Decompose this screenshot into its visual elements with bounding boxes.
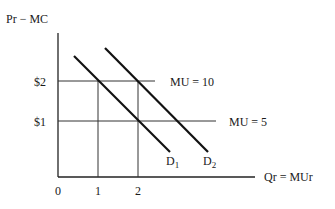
d2-label: D2 <box>203 154 216 170</box>
x-tick-1: 1 <box>95 184 101 198</box>
mu-5-label: MU = 5 <box>229 115 267 129</box>
y-tick-1: $1 <box>34 115 46 129</box>
y-axis-label: Pr − MC <box>6 12 48 26</box>
x-tick-2: 2 <box>135 184 141 198</box>
y-tick-2: $2 <box>34 75 46 89</box>
mu-10-label: MU = 10 <box>170 75 214 89</box>
x-tick-0: 0 <box>55 184 61 198</box>
d1-label: D1 <box>166 154 179 170</box>
demand-curve-d2 <box>105 48 208 152</box>
x-axis-label: Qr = MUr <box>264 170 313 184</box>
chart-canvas: Pr − MC $2 $1 0 1 2 Qr = MUr MU = 10 MU … <box>0 0 335 209</box>
demand-curve-d1 <box>74 56 170 152</box>
